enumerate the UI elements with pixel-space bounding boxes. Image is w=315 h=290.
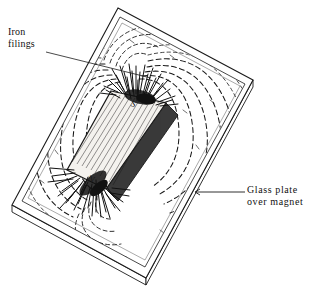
- label-iron-filings-line2: filings: [8, 38, 35, 50]
- figure-root: Iron filings Glass plate over magnet S N: [0, 0, 315, 290]
- label-glass-plate-line2: over magnet: [247, 196, 303, 208]
- label-glass-plate-line1: Glass plate: [247, 184, 298, 195]
- label-iron-filings-line1: Iron: [8, 26, 25, 37]
- label-iron-filings: Iron filings: [8, 26, 35, 50]
- magnetic-field-illustration: [0, 0, 315, 290]
- label-glass-plate: Glass plate over magnet: [247, 184, 303, 208]
